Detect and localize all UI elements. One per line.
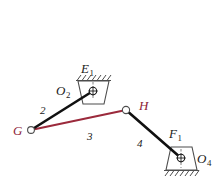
label-ground-e1-base: E: [81, 61, 89, 76]
joint-h: [122, 106, 129, 113]
label-pivot-o2-base: O: [56, 83, 65, 98]
joint-g: [28, 127, 35, 134]
label-pivot-o2: O2: [56, 84, 70, 97]
label-pivot-o4: O4: [197, 152, 211, 165]
label-ground-f1-base: F: [169, 126, 177, 141]
label-pivot-o4-sub: 4: [206, 158, 211, 168]
label-joint-h: H: [139, 99, 148, 112]
label-pivot-o2-sub: 2: [65, 90, 70, 100]
label-ground-f1: F1: [169, 127, 182, 140]
label-link-4: 4: [137, 138, 143, 149]
label-ground-f1-sub: 1: [177, 133, 182, 143]
label-ground-e1-sub: 1: [89, 68, 94, 78]
linkage-diagram-figure: E1 O2 F1 O4 G H 2 3 4: [0, 0, 223, 188]
label-link-2: 2: [40, 105, 46, 116]
diagram-canvas: [0, 0, 223, 188]
label-pivot-o4-base: O: [197, 151, 206, 166]
label-joint-g: G: [13, 124, 22, 137]
ground-f1-hatch-lines: [165, 171, 199, 177]
label-link-3: 3: [87, 131, 93, 142]
label-ground-e1: E1: [81, 62, 94, 75]
